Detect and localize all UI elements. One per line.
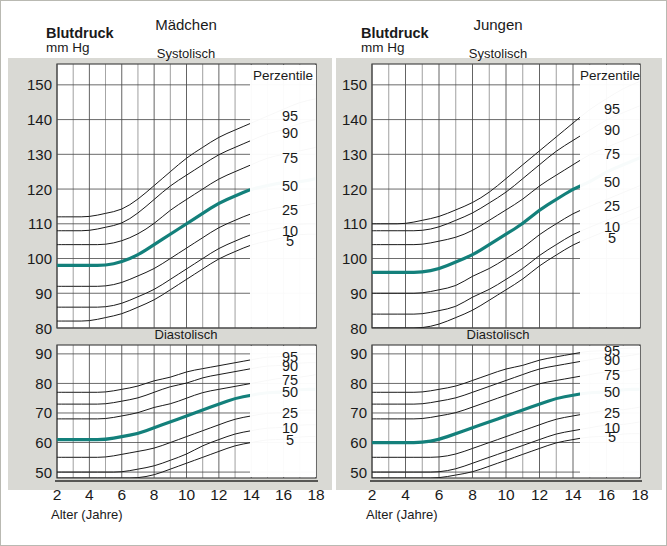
x-tick-label: 12 xyxy=(210,486,227,503)
chart-subtitle-diastolisch: Diastolisch xyxy=(155,327,218,342)
chart-subtitle-diastolisch: Diastolisch xyxy=(467,327,530,342)
legend-percentile-label-50: 50 xyxy=(604,384,620,400)
legend-jungen-systolisch: Perzentile9590755025105 xyxy=(580,65,640,327)
legend-percentile-label-95: 95 xyxy=(282,108,298,124)
x-tick-label: 2 xyxy=(368,486,377,503)
chart-jungen-systolisch: Systolisch1501401301201101009080Perzenti… xyxy=(342,46,649,522)
y-tick-label: 90 xyxy=(350,345,367,362)
x-tick-label: 16 xyxy=(598,486,615,503)
x-tick-label: 18 xyxy=(307,486,324,503)
y-tick-label: 130 xyxy=(342,146,367,163)
axis-title-mmhg: mm Hg xyxy=(46,40,90,55)
y-tick-label: 60 xyxy=(35,434,52,451)
legend-percentile-label-90: 90 xyxy=(604,122,620,138)
y-tick-label: 150 xyxy=(342,76,367,93)
group-title: Jungen xyxy=(473,16,522,33)
x-axis-title: Alter (Jahre) xyxy=(366,507,438,522)
group-title: Mädchen xyxy=(155,16,217,33)
x-axis-title: Alter (Jahre) xyxy=(51,507,123,522)
legend-background xyxy=(250,65,316,327)
legend-percentile-label-50: 50 xyxy=(604,174,620,190)
legend-percentile-label-90: 90 xyxy=(282,125,298,141)
y-tick-label: 100 xyxy=(342,250,367,267)
y-tick-label: 140 xyxy=(27,111,52,128)
blood-pressure-percentile-figure: Blutdruckmm HgMädchenSystolisch150140130… xyxy=(0,0,667,546)
legend-percentile-label-25: 25 xyxy=(604,405,620,421)
legend-percentile-label-50: 50 xyxy=(282,384,298,400)
legend-percentile-label-90: 90 xyxy=(604,352,620,368)
legend-percentile-label-50: 50 xyxy=(282,178,298,194)
y-tick-label: 120 xyxy=(27,181,52,198)
legend-percentile-label-5: 5 xyxy=(608,230,616,246)
y-tick-label: 110 xyxy=(28,215,52,232)
legend-percentile-label-90: 90 xyxy=(282,358,298,374)
legend-maedchen-systolisch: Perzentile9590755025105 xyxy=(250,65,316,327)
legend-percentile-label-75: 75 xyxy=(604,367,620,383)
x-tick-label: 10 xyxy=(178,486,196,503)
legend-percentile-label-75: 75 xyxy=(604,146,620,162)
panel-jungen: Blutdruckmm HgJungenSystolisch1501401301… xyxy=(342,16,649,522)
y-tick-label: 50 xyxy=(35,464,52,481)
chart-subtitle-systolisch: Systolisch xyxy=(469,46,528,61)
y-tick-label: 140 xyxy=(342,111,367,128)
x-tick-label: 4 xyxy=(85,486,94,503)
legend-percentile-label-5: 5 xyxy=(286,233,294,249)
legend-percentile-label-25: 25 xyxy=(604,198,620,214)
chart-subtitle-systolisch: Systolisch xyxy=(157,46,216,61)
y-tick-label: 50 xyxy=(350,464,367,481)
y-tick-label: 100 xyxy=(27,250,52,267)
x-tick-label: 14 xyxy=(243,486,261,503)
axis-title-mmhg: mm Hg xyxy=(361,40,405,55)
x-tick-label: 2 xyxy=(53,486,62,503)
legend-percentile-label-5: 5 xyxy=(286,432,294,448)
y-tick-label: 60 xyxy=(350,434,367,451)
legend-maedchen-diastolisch: 9590755025105 xyxy=(250,346,316,477)
legend-percentile-label-75: 75 xyxy=(282,150,298,166)
x-tick-label: 6 xyxy=(435,486,444,503)
y-tick-label: 110 xyxy=(343,215,367,232)
y-tick-label: 80 xyxy=(350,375,367,392)
y-tick-label: 80 xyxy=(350,320,367,337)
legend-percentile-label-5: 5 xyxy=(608,429,616,445)
legend-title-perzentile: Perzentile xyxy=(253,68,313,83)
legend-percentile-label-25: 25 xyxy=(282,202,298,218)
x-tick-label: 10 xyxy=(497,486,515,503)
y-tick-label: 90 xyxy=(35,285,52,302)
y-tick-label: 150 xyxy=(27,76,52,93)
y-tick-label: 120 xyxy=(342,181,367,198)
y-tick-label: 130 xyxy=(27,146,52,163)
y-tick-label: 90 xyxy=(35,345,52,362)
axis-title-blutdruck: Blutdruck xyxy=(361,25,430,41)
y-tick-label: 70 xyxy=(35,404,52,421)
legend-percentile-label-25: 25 xyxy=(282,405,298,421)
x-tick-label: 18 xyxy=(631,486,648,503)
legend-title-perzentile: Perzentile xyxy=(580,68,640,83)
x-tick-label: 14 xyxy=(564,486,582,503)
x-tick-label: 6 xyxy=(117,486,126,503)
x-tick-label: 8 xyxy=(150,486,159,503)
x-tick-label: 4 xyxy=(401,486,410,503)
legend-jungen-diastolisch: 9590755025105 xyxy=(580,343,640,477)
legend-percentile-label-95: 95 xyxy=(604,101,620,117)
figure-canvas: Blutdruckmm HgMädchenSystolisch150140130… xyxy=(0,0,667,546)
y-tick-label: 90 xyxy=(350,285,367,302)
x-tick-label: 8 xyxy=(468,486,477,503)
axis-title-blutdruck: Blutdruck xyxy=(46,25,115,41)
y-tick-label: 80 xyxy=(35,320,52,337)
x-tick-label: 16 xyxy=(275,486,292,503)
y-tick-label: 70 xyxy=(350,404,367,421)
x-tick-label: 12 xyxy=(531,486,548,503)
y-tick-label: 80 xyxy=(35,375,52,392)
